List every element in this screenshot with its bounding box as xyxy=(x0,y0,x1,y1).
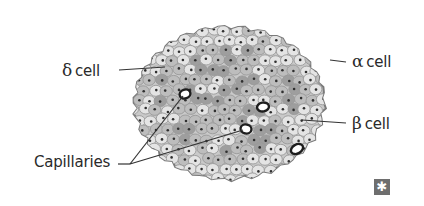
cell-nucleus xyxy=(189,50,192,53)
cell-nucleus xyxy=(144,107,147,110)
cell-nucleus xyxy=(144,69,147,72)
cell-nucleus xyxy=(217,158,220,161)
cell-nucleus xyxy=(240,41,243,44)
capillary xyxy=(240,124,252,135)
cell-nucleus xyxy=(223,108,226,111)
cell-nucleus xyxy=(240,140,243,143)
alpha-cell-text: cell xyxy=(366,53,391,71)
islet-cells xyxy=(126,16,330,186)
cell-nucleus xyxy=(281,69,284,72)
cell-nucleus xyxy=(275,159,278,162)
cell-nucleus xyxy=(162,39,165,42)
cell-nucleus xyxy=(159,100,162,103)
cell-nucleus xyxy=(264,139,267,142)
cell-nucleus xyxy=(302,129,305,132)
cell-nucleus xyxy=(219,119,222,122)
cell-nucleus xyxy=(205,57,208,60)
cell-nucleus xyxy=(287,40,290,43)
cell-nucleus xyxy=(201,29,204,32)
cell-nucleus xyxy=(312,99,315,102)
cell-nucleus xyxy=(228,158,231,161)
cell-nucleus xyxy=(155,71,158,74)
cell-nucleus xyxy=(233,109,236,112)
cell-nucleus xyxy=(250,120,253,123)
cell-nucleus xyxy=(271,69,274,72)
cell-nucleus xyxy=(201,109,204,112)
alpha-cell-label: αcell xyxy=(352,53,391,70)
cell-nucleus xyxy=(155,49,158,52)
cell-nucleus xyxy=(148,79,151,82)
islet-cell xyxy=(191,172,203,183)
cell-nucleus xyxy=(293,48,296,51)
cell-nucleus xyxy=(257,89,260,92)
cell-nucleus xyxy=(201,49,204,52)
cell-nucleus xyxy=(247,49,250,52)
cell-nucleus xyxy=(225,151,228,154)
asterisk-icon[interactable]: ✱ xyxy=(374,179,390,195)
cell-nucleus xyxy=(275,136,278,139)
cell-nucleus xyxy=(280,49,283,52)
alpha-symbol: α xyxy=(352,51,363,71)
cell-nucleus xyxy=(292,109,295,112)
capillaries-label: Capillaries xyxy=(34,155,110,170)
cell-nucleus xyxy=(229,99,232,102)
cell-nucleus xyxy=(167,49,170,52)
cell-nucleus xyxy=(236,146,239,149)
cell-nucleus xyxy=(251,38,254,41)
cell-nucleus xyxy=(281,91,284,94)
cell-nucleus xyxy=(193,78,196,81)
cell-nucleus xyxy=(253,139,256,142)
beta-cell-label: βcell xyxy=(352,115,390,132)
cell-nucleus xyxy=(183,38,186,41)
cell-nucleus xyxy=(164,89,167,92)
cell-nucleus xyxy=(195,40,198,43)
cell-nucleus xyxy=(185,120,188,123)
cell-nucleus xyxy=(257,68,260,71)
cell-nucleus xyxy=(194,59,197,62)
cell-nucleus xyxy=(253,58,256,61)
alpha-leader-line xyxy=(330,60,346,62)
cell-nucleus xyxy=(245,68,248,71)
cell-nucleus xyxy=(279,148,282,151)
cell-nucleus xyxy=(182,59,185,62)
cell-nucleus xyxy=(223,89,226,92)
cell-nucleus xyxy=(162,59,165,62)
cell-nucleus xyxy=(148,100,151,103)
cell-nucleus xyxy=(161,138,164,141)
cell-nucleus xyxy=(150,120,153,123)
cell-nucleus xyxy=(228,38,231,41)
cell-nucleus xyxy=(222,30,225,33)
cell-nucleus xyxy=(141,129,144,132)
cell-nucleus xyxy=(264,78,267,81)
cell-nucleus xyxy=(298,81,301,84)
cell-nucleus xyxy=(199,87,202,90)
cell-nucleus xyxy=(213,87,216,90)
cell-nucleus xyxy=(178,50,181,53)
delta-cell-label: δcell xyxy=(62,62,100,79)
cell-nucleus xyxy=(160,159,163,162)
cell-nucleus xyxy=(259,31,262,34)
cell-nucleus xyxy=(275,80,278,83)
cell-nucleus xyxy=(216,100,219,103)
cell-nucleus xyxy=(269,111,272,114)
cell-nucleus xyxy=(211,169,214,172)
cell-nucleus xyxy=(258,146,261,149)
cell-nucleus xyxy=(269,90,272,93)
cell-nucleus xyxy=(299,59,302,62)
cell-nucleus xyxy=(166,148,169,151)
cell-nucleus xyxy=(257,170,260,173)
cell-nucleus xyxy=(207,157,210,160)
islet-diagram: δcell αcell βcell Capillaries ✱ xyxy=(0,0,424,206)
cell-nucleus xyxy=(162,117,165,120)
cell-nucleus xyxy=(311,117,314,120)
cell-nucleus xyxy=(197,97,200,100)
cell-nucleus xyxy=(153,108,156,111)
cell-nucleus xyxy=(292,70,295,73)
cell-nucleus xyxy=(222,69,225,72)
cell-nucleus xyxy=(199,69,202,72)
cell-nucleus xyxy=(264,158,267,161)
delta-symbol: δ xyxy=(62,60,72,80)
cell-nucleus xyxy=(239,100,242,103)
cell-nucleus xyxy=(246,168,249,171)
cell-nucleus xyxy=(201,146,204,149)
